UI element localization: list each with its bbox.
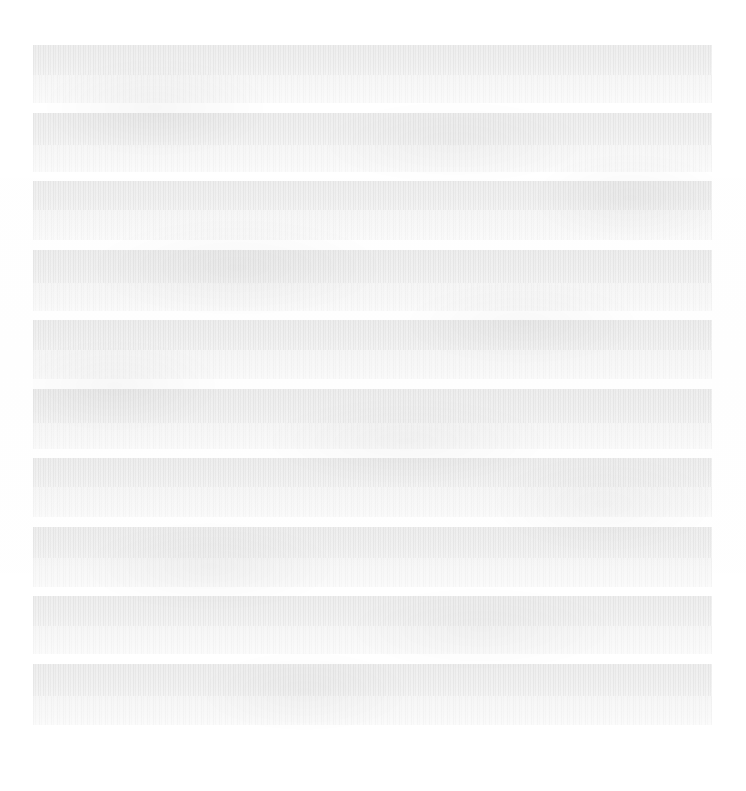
text-block: [33, 458, 712, 517]
text-block-dense-lines: [33, 250, 712, 283]
text-block: [33, 596, 712, 654]
text-block-dense-lines: [33, 458, 712, 487]
text-block-trailing-line: [33, 423, 712, 449]
text-block: [33, 250, 712, 311]
text-block-trailing-line: [33, 558, 712, 587]
text-block-trailing-line: [33, 350, 712, 379]
text-block: [33, 181, 712, 240]
text-block: [33, 320, 712, 379]
text-block-dense-lines: [33, 181, 712, 210]
scanned-content-area: [33, 45, 712, 740]
text-block-dense-lines: [33, 596, 712, 626]
text-block-dense-lines: [33, 45, 712, 75]
text-block-trailing-line: [33, 626, 712, 654]
text-block: [33, 527, 712, 587]
text-block: [33, 389, 712, 449]
text-block-trailing-line: [33, 487, 712, 517]
document-page: [0, 0, 746, 791]
text-block-dense-lines: [33, 664, 712, 696]
text-block: [33, 664, 712, 725]
text-block: [33, 113, 712, 172]
text-block: [33, 45, 712, 103]
text-block-trailing-line: [33, 210, 712, 240]
text-block-dense-lines: [33, 320, 712, 350]
text-block-trailing-line: [33, 696, 712, 725]
text-block-trailing-line: [33, 75, 712, 103]
text-block-list: [33, 45, 712, 725]
text-block-dense-lines: [33, 113, 712, 145]
text-block-dense-lines: [33, 527, 712, 558]
text-block-trailing-line: [33, 145, 712, 172]
text-block-dense-lines: [33, 389, 712, 423]
text-block-trailing-line: [33, 283, 712, 311]
